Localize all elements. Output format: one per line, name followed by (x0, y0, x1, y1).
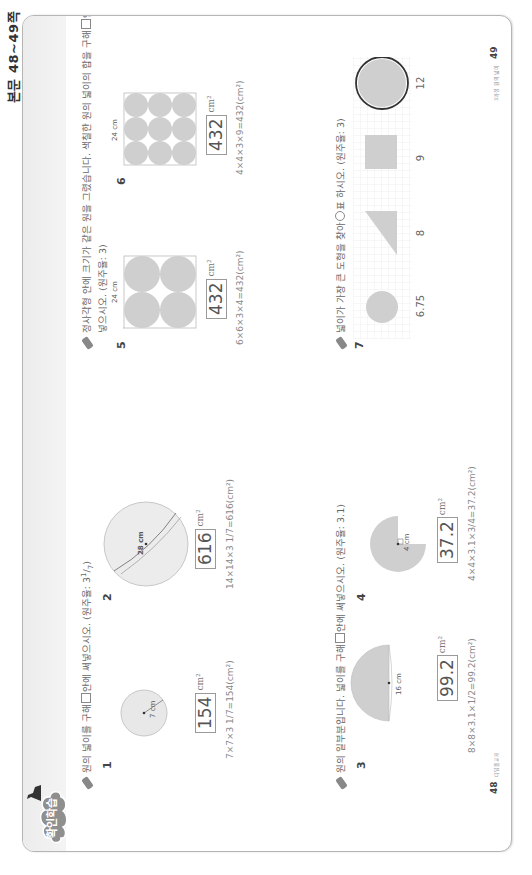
pencil-icon (81, 776, 94, 790)
rotated-page: 본문 48~49쪽 확인학습 원의 넓이를 구해안에 써넣으시오. (원주율: … (0, 0, 532, 875)
dimension-label-2: 28 cm (137, 531, 145, 555)
formula-3: 8×8×3.1×1/2=99.2(cm²) (467, 638, 477, 753)
area-label-3: 9 (415, 143, 426, 173)
footer-text-right: 3과정 원의 넓이 (492, 65, 499, 101)
answer-6: 432cm² (206, 95, 227, 155)
formula-4: 4×4×3.1×3/4=37.2(cm²) (467, 466, 477, 581)
circle-shape-12 (358, 59, 406, 107)
problem-number-4: 4 (355, 593, 368, 601)
page-range-header: 본문 48~49쪽 (3, 11, 22, 103)
problem-number-3: 3 (355, 761, 368, 769)
answer-box-icon (81, 19, 91, 29)
formula-5: 6×6×3×4=432(cm²) (235, 250, 245, 345)
problem-number-7: 7 (353, 341, 366, 349)
answer-value-5[interactable]: 432 (206, 279, 227, 319)
dimension-label-4: 4 cm (403, 534, 411, 551)
answer-value-3[interactable]: 99.2 (437, 655, 458, 701)
dimension-label-1: 7 cm (149, 701, 157, 718)
problem-number-1: 1 (101, 761, 114, 769)
square-shape-9 (365, 135, 397, 169)
pencil-icon (81, 336, 94, 350)
circle-mark-icon (335, 211, 345, 221)
square-with-9-circles-figure-6 (123, 90, 199, 166)
square-with-4-circles-figure-5 (123, 253, 199, 329)
answer-value-2[interactable]: 616 (195, 529, 216, 569)
formula-6: 4×4×3×9=432(cm²) (235, 80, 245, 175)
area-label-4: 12 (415, 68, 426, 98)
answer-value-4[interactable]: 37.2 (437, 517, 458, 563)
answer-box-icon (81, 693, 91, 703)
problem-number-5: 5 (115, 341, 128, 349)
problem-number-2: 2 (101, 593, 114, 601)
answer-box-icon (335, 633, 345, 643)
circle-shape-6-75 (366, 291, 398, 323)
shape-grid-figure-7 (353, 57, 411, 339)
instruction-section-4: 넓이가 가장 큰 도형을 찾아표 하시오. (원주율: 3) (333, 118, 347, 349)
three-quarter-circle-figure-4 (367, 513, 429, 575)
circle-figure-2 (101, 499, 191, 589)
formula-1: 7×7×3 1/7=154(cm²) (225, 660, 235, 759)
instruction-section-1: 원의 넓이를 구해안에 써넣으시오. (원주율: 31/7) (79, 561, 95, 789)
answer-3: 99.2cm² (437, 636, 458, 701)
problem-number-6: 6 (115, 177, 128, 185)
semicircle-figure-3 (349, 643, 395, 723)
circle-figure-1 (119, 688, 169, 738)
pencil-icon (335, 776, 348, 790)
instruction-section-3: 정사각형 안에 크기가 같은 원을 그렸습니다. 색칠한 원의 넓이의 합을 구… (79, 15, 93, 349)
answer-2: 616cm² (195, 509, 216, 569)
footer-text-left: 디딤돌교재 (492, 752, 499, 777)
area-label-2: 8 (415, 218, 426, 248)
answer-4: 37.2cm² (437, 498, 458, 563)
instruction-section-3-line2: 넣으시오. (원주율: 3) (95, 244, 109, 333)
answer-5: 432cm² (206, 259, 227, 319)
answer-1: 154cm² (195, 673, 216, 733)
header-band (23, 16, 66, 851)
workbook-page-card: 확인학습 원의 넓이를 구해안에 써넣으시오. (원주율: 31/7) 1 7 … (22, 15, 512, 852)
instruction-section-2: 원의 일부분입니다. 넓이를 구해안에 써넣으시오. (원주율: 3.1) (333, 504, 347, 789)
formula-2: 14×14×3 1/7=616(cm²) (225, 479, 235, 589)
dimension-label-6: 24 cm (111, 119, 119, 141)
page-number-left: 48 (489, 781, 499, 794)
answer-value-6[interactable]: 432 (206, 115, 227, 155)
area-label-1: 6.75 (415, 291, 426, 321)
page-number-right: 49 (489, 46, 499, 59)
giraffe-icon (25, 783, 43, 803)
dimension-label-3: 16 cm (395, 673, 403, 695)
dimension-label-5: 24 cm (111, 281, 119, 303)
answer-value-1[interactable]: 154 (195, 693, 216, 733)
pencil-icon (335, 336, 348, 350)
